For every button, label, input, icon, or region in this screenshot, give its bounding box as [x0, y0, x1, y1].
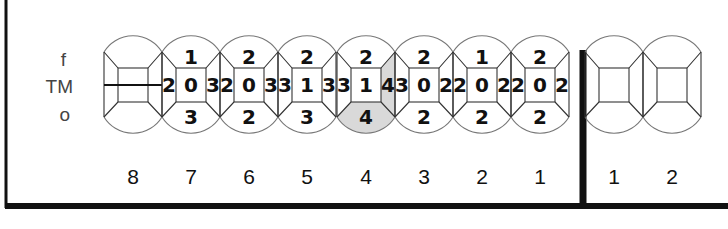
tooth-number: 5 [301, 165, 313, 188]
periodontal-chart: f TM o 812033722032623133523144423022312… [0, 0, 728, 229]
value-tm-center[interactable]: 0 [533, 73, 547, 97]
tooth-left-3[interactable]: 230223 [395, 36, 453, 188]
value-tm-center[interactable]: 0 [475, 73, 489, 97]
value-f[interactable]: 1 [184, 45, 198, 69]
value-tm-center[interactable]: 0 [417, 73, 431, 97]
tooth-left-5[interactable]: 231335 [278, 36, 336, 188]
value-o[interactable]: 3 [184, 105, 198, 129]
tooth-diagonals [585, 52, 643, 117]
value-f[interactable]: 2 [359, 45, 373, 69]
value-o[interactable]: 3 [300, 105, 314, 129]
value-tm-left[interactable]: 3 [395, 73, 409, 97]
value-f[interactable]: 2 [417, 45, 431, 69]
value-tm-right[interactable]: 2 [555, 73, 569, 97]
value-tm-center[interactable]: 0 [242, 73, 256, 97]
tooth-number: 1 [534, 165, 546, 188]
tooth-right-2[interactable]: 2 [643, 36, 701, 188]
value-tm-left[interactable]: 3 [337, 73, 351, 97]
tooth-number: 2 [666, 165, 678, 188]
quadrant-left: 8120337220326231335231444230223120222220… [104, 36, 569, 188]
value-tm-center[interactable]: 0 [184, 73, 198, 97]
row-label-f: f [61, 49, 67, 70]
quadrant-right: 12 [585, 36, 701, 188]
value-o[interactable]: 2 [533, 105, 547, 129]
value-f[interactable]: 1 [475, 45, 489, 69]
tooth-left-8[interactable]: 8 [104, 36, 162, 188]
value-tm-right[interactable]: 2 [497, 73, 511, 97]
value-o[interactable]: 4 [359, 105, 373, 129]
tooth-outline [643, 36, 701, 134]
tooth-left-1[interactable]: 220221 [511, 36, 569, 188]
tooth-number: 3 [418, 165, 430, 188]
tooth-left-7[interactable]: 120337 [162, 36, 220, 188]
value-tm-right[interactable]: 4 [381, 73, 395, 97]
value-o[interactable]: 2 [475, 105, 489, 129]
tooth-diagonals [643, 52, 701, 117]
tooth-number: 4 [360, 165, 372, 188]
value-o[interactable]: 2 [242, 105, 256, 129]
value-tm-center[interactable]: 1 [300, 73, 314, 97]
tooth-right-1[interactable]: 1 [585, 36, 643, 188]
tooth-occlusal-box [599, 68, 629, 102]
value-tm-left[interactable]: 2 [453, 73, 467, 97]
value-tm-left[interactable]: 2 [511, 73, 525, 97]
tooth-left-2[interactable]: 120222 [453, 36, 511, 188]
row-label-o: o [59, 104, 70, 125]
value-f[interactable]: 2 [242, 45, 256, 69]
value-tm-left[interactable]: 2 [162, 73, 176, 97]
tooth-left-4[interactable]: 231444 [337, 36, 395, 188]
row-label-tm: TM [46, 76, 73, 97]
value-f[interactable]: 2 [533, 45, 547, 69]
tooth-number: 8 [127, 165, 139, 188]
tooth-left-6[interactable]: 220326 [220, 36, 278, 188]
value-tm-left[interactable]: 3 [278, 73, 292, 97]
value-tm-right[interactable]: 3 [206, 73, 220, 97]
tooth-outline [585, 36, 643, 134]
tooth-occlusal-box [657, 68, 687, 102]
value-tm-right[interactable]: 3 [264, 73, 278, 97]
tooth-number: 1 [608, 165, 620, 188]
value-tm-left[interactable]: 2 [220, 73, 234, 97]
tooth-number: 6 [243, 165, 255, 188]
tooth-number: 7 [185, 165, 197, 188]
value-tm-right[interactable]: 3 [322, 73, 336, 97]
value-f[interactable]: 2 [300, 45, 314, 69]
tooth-number: 2 [476, 165, 488, 188]
value-o[interactable]: 2 [417, 105, 431, 129]
value-tm-center[interactable]: 1 [359, 73, 373, 97]
value-tm-right[interactable]: 2 [439, 73, 453, 97]
